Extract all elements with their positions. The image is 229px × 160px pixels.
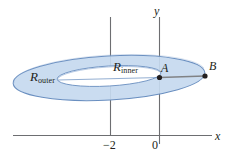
point-a-marker (157, 75, 162, 80)
tick-label-zero: 0 (152, 139, 158, 151)
label-x-axis: x (215, 130, 220, 142)
label-point-a: A (161, 62, 168, 74)
annulus-diagram: Router Rinner A B y x −2 0 (0, 0, 229, 160)
tick-label-minus-two: −2 (103, 139, 116, 151)
label-y-axis: y (154, 5, 159, 17)
label-point-b: B (209, 60, 216, 72)
label-r-outer-subscript: outer (38, 76, 55, 85)
label-r-outer: Router (30, 70, 55, 85)
label-r-inner-base: R (113, 59, 121, 74)
point-b-marker (202, 73, 207, 78)
label-r-outer-base: R (30, 69, 38, 84)
label-r-inner-subscript: inner (121, 66, 138, 75)
label-r-inner: Rinner (113, 60, 138, 75)
